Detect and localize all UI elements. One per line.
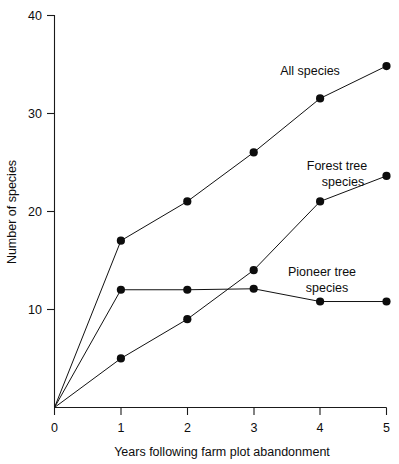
data-point <box>316 94 324 102</box>
y-axis-title: Number of species <box>5 160 19 264</box>
y-tick-label-40: 40 <box>28 9 42 23</box>
chart-plot-area: 40 30 20 10 0 1 2 3 4 5 Years following … <box>0 0 399 464</box>
x-tick-label-0: 0 <box>51 421 58 435</box>
data-point <box>382 62 390 70</box>
x-tick-label-5: 5 <box>383 421 390 435</box>
data-point <box>250 148 258 156</box>
data-point <box>382 172 390 180</box>
data-point <box>316 197 324 205</box>
series-label-pioneer-tree-line1: Pioneer tree <box>288 265 356 279</box>
data-point <box>183 315 191 323</box>
series-line-2 <box>55 289 387 408</box>
data-point <box>316 297 324 305</box>
data-point <box>183 286 191 294</box>
data-point <box>250 285 258 293</box>
data-point <box>382 297 390 305</box>
data-point <box>183 197 191 205</box>
x-tick-label-2: 2 <box>184 421 191 435</box>
y-tick-label-10: 10 <box>28 303 42 317</box>
data-point <box>117 354 125 362</box>
data-point <box>117 237 125 245</box>
x-tick-label-4: 4 <box>317 421 324 435</box>
data-point <box>117 286 125 294</box>
series-label-forest-tree-line1: Forest tree <box>307 159 367 173</box>
data-point <box>250 266 258 274</box>
series-label-pioneer-tree-line2: species <box>306 281 348 295</box>
x-axis-title: Years following farm plot abandonment <box>114 445 330 459</box>
y-tick-label-30: 30 <box>28 107 42 121</box>
x-tick-label-1: 1 <box>118 421 125 435</box>
x-tick-label-3: 3 <box>251 421 258 435</box>
series-group <box>55 62 391 408</box>
series-line-0 <box>55 66 387 407</box>
y-tick-label-20: 20 <box>28 205 42 219</box>
series-label-forest-tree-line2: species <box>322 175 364 189</box>
species-accumulation-chart: 40 30 20 10 0 1 2 3 4 5 Years following … <box>0 0 399 464</box>
series-label-all-species: All species <box>280 64 340 78</box>
